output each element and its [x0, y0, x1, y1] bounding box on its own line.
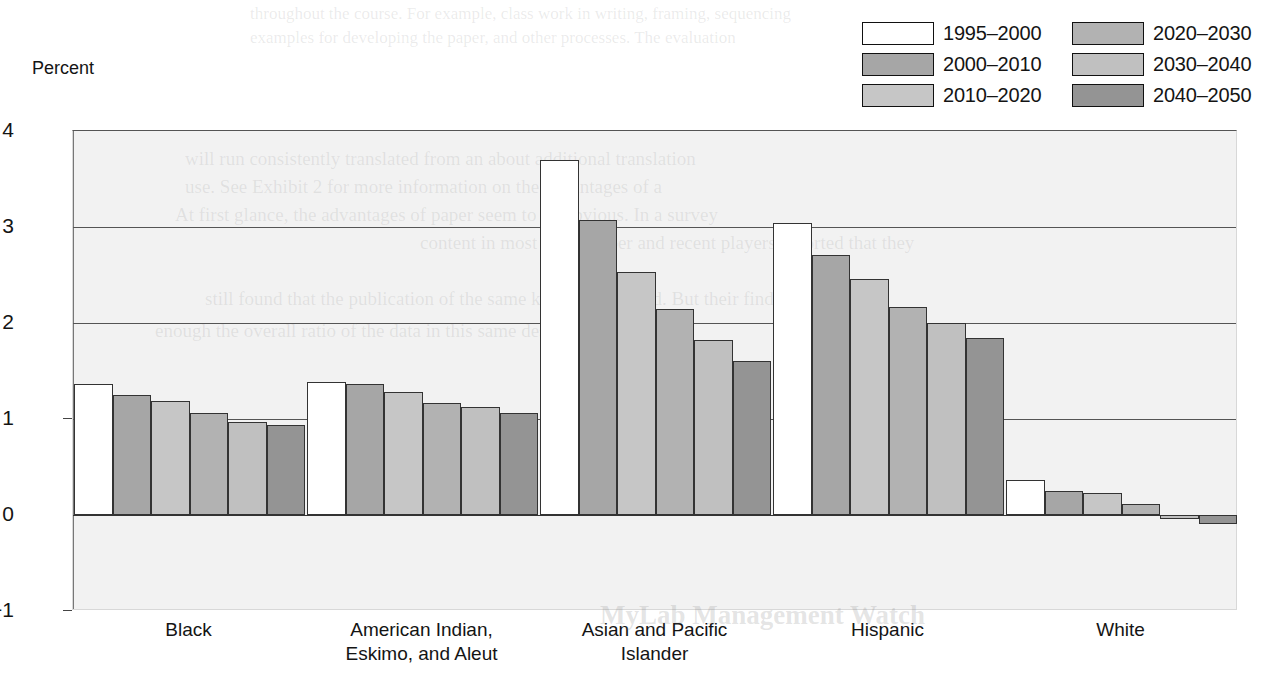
legend-label: 2040–2050: [1153, 84, 1251, 107]
bar: [656, 309, 695, 515]
bar: [1006, 480, 1045, 515]
legend-label: 2010–2020: [943, 84, 1041, 107]
chart-plot-area: [72, 130, 1237, 610]
bar: [500, 413, 539, 515]
legend-label: 1995–2000: [943, 22, 1041, 45]
legend-label: 2000–2010: [943, 53, 1041, 76]
bar: [346, 384, 385, 515]
y-tick-label: 4: [0, 118, 14, 142]
legend-item: 2030–2040: [1072, 53, 1262, 76]
bar: [1045, 491, 1084, 515]
y-tick-label: −1: [0, 598, 14, 622]
legend-swatch: [862, 53, 934, 76]
y-tick-label: 3: [0, 214, 14, 238]
bar: [74, 384, 113, 515]
legend-item: 2020–2030: [1072, 22, 1262, 45]
legend-swatch: [1072, 84, 1144, 107]
bar: [423, 403, 462, 515]
y-tick-mark: [63, 610, 72, 611]
legend-swatch: [862, 84, 934, 107]
legend: 1995–20002020–20302000–20102030–20402010…: [862, 18, 1262, 111]
gridline-3: [73, 227, 1236, 228]
bar: [1199, 515, 1238, 524]
bar: [540, 160, 579, 515]
bar: [966, 338, 1005, 515]
bar: [113, 395, 152, 515]
category-label: Asian and Pacific Islander: [582, 618, 728, 666]
legend-label: 2020–2030: [1153, 22, 1251, 45]
bar: [617, 272, 656, 515]
bar: [694, 340, 733, 515]
legend-item: 2040–2050: [1072, 84, 1262, 107]
bar: [1083, 493, 1122, 515]
bar: [384, 392, 423, 515]
bar: [850, 279, 889, 515]
y-tick-mark: [63, 418, 72, 419]
legend-item: 2000–2010: [862, 53, 1072, 76]
legend-item: 2010–2020: [862, 84, 1072, 107]
legend-item: 1995–2000: [862, 22, 1072, 45]
bar: [812, 255, 851, 515]
y-tick-label: 0: [0, 502, 14, 526]
bar: [733, 361, 772, 515]
bar: [579, 220, 618, 515]
category-label: White: [1096, 618, 1145, 642]
legend-swatch: [1072, 53, 1144, 76]
bar: [190, 413, 229, 515]
category-label: Hispanic: [851, 618, 924, 642]
y-tick-label: 1: [0, 406, 14, 430]
bar: [1122, 504, 1161, 515]
y-tick-label: 2: [0, 310, 14, 334]
y-axis-line: [73, 131, 74, 609]
y-axis-title: Percent: [32, 58, 94, 79]
bar: [461, 407, 500, 515]
bar: [773, 223, 812, 515]
category-label: American Indian, Eskimo, and Aleut: [345, 618, 497, 666]
bar: [267, 425, 306, 515]
category-label: Black: [165, 618, 211, 642]
bar: [151, 401, 190, 515]
bleedthrough-line: throughout the course. For example, clas…: [250, 4, 791, 24]
bar: [889, 307, 928, 515]
bar: [1160, 515, 1199, 519]
bar: [927, 323, 966, 515]
legend-swatch: [862, 22, 934, 45]
legend-swatch: [1072, 22, 1144, 45]
bleedthrough-line: examples for developing the paper, and o…: [250, 28, 736, 48]
zero-baseline: [73, 515, 1236, 516]
legend-label: 2030–2040: [1153, 53, 1251, 76]
bar: [307, 382, 346, 515]
bar: [228, 422, 267, 515]
